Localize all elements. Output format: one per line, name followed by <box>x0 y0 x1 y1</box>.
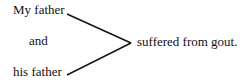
top-connector-line <box>67 14 131 43</box>
subject-bottom: his father <box>13 65 62 79</box>
conjunction: and <box>29 34 48 48</box>
predicate: suffered from gout. <box>137 35 237 49</box>
subject-top: My father <box>13 3 65 17</box>
bottom-connector-line <box>67 43 131 75</box>
